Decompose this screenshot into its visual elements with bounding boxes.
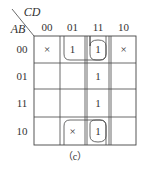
cell: × [111,44,136,55]
col-label: 10 [111,22,136,33]
cell: 1 [85,98,111,109]
row-label: 10 [12,126,32,137]
cell: 1 [85,44,111,55]
cell: 1 [85,126,111,137]
col-label: 11 [85,22,111,33]
cell: 1 [60,44,85,55]
col-label: 00 [34,22,60,33]
figure-caption: （c） [55,151,95,162]
cell: 1 [85,71,111,82]
cell: × [60,126,85,137]
row-label: 01 [12,71,32,82]
col-variable: CD [20,7,44,18]
row-label: 11 [12,98,32,109]
row-variable: AB [8,24,28,35]
col-label: 01 [60,22,85,33]
cell: × [34,44,60,55]
row-label: 00 [12,44,32,55]
